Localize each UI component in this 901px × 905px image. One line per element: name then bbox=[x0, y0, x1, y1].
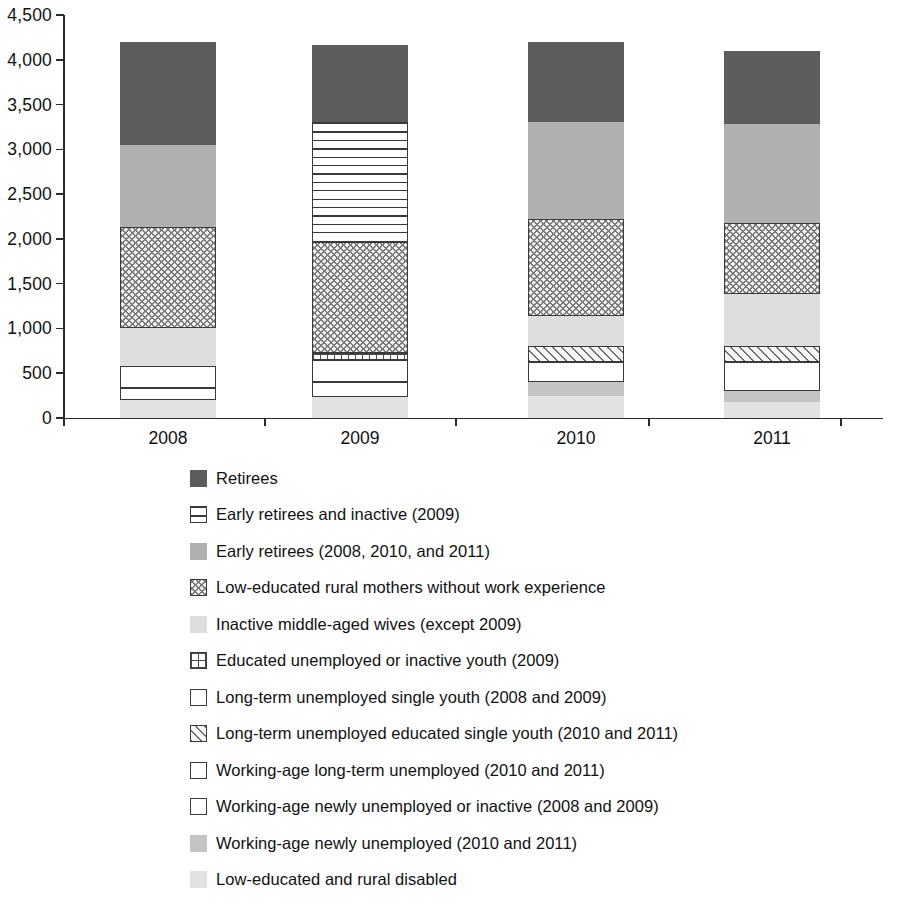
bar-segment-2010-working-age-long-term-unemployed-2010-and-2011 bbox=[528, 362, 624, 382]
x-axis-label-2009: 2009 bbox=[310, 428, 410, 449]
legend-swatch-solid-dark-gray-icon bbox=[190, 470, 207, 487]
legend-label: Long-term unemployed single youth (2008 … bbox=[216, 688, 606, 707]
bar-series-area bbox=[0, 0, 901, 455]
bar-segment-2011-inactive-middle-aged-wives-except-2009 bbox=[724, 294, 820, 347]
legend-item-working-age-newly-unemployed-or-inactive-2008-[interactable]: Working-age newly unemployed or inactive… bbox=[0, 789, 901, 826]
legend-item-inactive-middle-aged-wives-except-2009[interactable]: Inactive middle-aged wives (except 2009) bbox=[0, 606, 901, 643]
bar-segment-2009-working-age-newly-unemployed-or-inactive-2008- bbox=[312, 382, 408, 397]
bar-segment-2010-low-educated-and-rural-disabled bbox=[528, 396, 624, 418]
bar-segment-2011-low-educated-and-rural-disabled bbox=[724, 402, 820, 418]
legend-item-working-age-long-term-unemployed-2010-and-2011[interactable]: Working-age long-term unemployed (2010 a… bbox=[0, 752, 901, 789]
x-axis-label-2011: 2011 bbox=[722, 428, 822, 449]
x-axis-label-2010: 2010 bbox=[526, 428, 626, 449]
bar-segment-2009-low-educated-and-rural-disabled bbox=[312, 397, 408, 418]
bar-segment-2011-early-retirees-2008-2010-and-2011 bbox=[724, 124, 820, 223]
bar-2008 bbox=[120, 0, 216, 455]
bar-segment-2011-low-educated-rural-mothers-without-work-experi bbox=[724, 223, 820, 294]
legend-swatch-fine-grid-icon bbox=[190, 652, 207, 669]
legend-label: Early retirees (2008, 2010, and 2011) bbox=[216, 542, 490, 561]
legend-swatch-solid-medium-gray-icon bbox=[190, 543, 207, 560]
legend-label: Low-educated rural mothers without work … bbox=[216, 578, 606, 597]
legend-swatch-solid-gray-icon bbox=[190, 835, 207, 852]
legend-label: Retirees bbox=[216, 469, 278, 488]
legend-label: Inactive middle-aged wives (except 2009) bbox=[216, 615, 522, 634]
legend-swatch-solid-light-gray-icon bbox=[190, 616, 207, 633]
legend-item-early-retirees-and-inactive-2009[interactable]: Early retirees and inactive (2009) bbox=[0, 497, 901, 534]
bar-segment-2010-working-age-newly-unemployed-2010-and-2011 bbox=[528, 382, 624, 395]
bar-segment-2009-retirees bbox=[312, 45, 408, 123]
bar-segment-2009-educated-unemployed-or-inactive-youth-2009 bbox=[312, 353, 408, 360]
legend-swatch-white-outline-icon bbox=[190, 689, 207, 706]
legend-item-low-educated-rural-mothers-without-work-experi[interactable]: Low-educated rural mothers without work … bbox=[0, 570, 901, 607]
bar-segment-2011-retirees bbox=[724, 51, 820, 124]
legend-swatch-crosshatch-icon bbox=[190, 579, 207, 596]
bar-segment-2008-low-educated-rural-mothers-without-work-experi bbox=[120, 227, 216, 328]
bar-2011 bbox=[724, 0, 820, 455]
legend-label: Working-age long-term unemployed (2010 a… bbox=[216, 761, 605, 780]
legend-swatch-diagonal-hatch-icon bbox=[190, 725, 207, 742]
bar-segment-2010-low-educated-rural-mothers-without-work-experi bbox=[528, 219, 624, 316]
bar-segment-2008-early-retirees-2008-2010-and-2011 bbox=[120, 145, 216, 227]
legend-label: Low-educated and rural disabled bbox=[216, 870, 457, 889]
bar-segment-2010-retirees bbox=[528, 42, 624, 123]
stacked-bar-chart: 05001,0001,5002,0002,5003,0003,5004,0004… bbox=[0, 0, 901, 455]
legend-item-retirees[interactable]: Retirees bbox=[0, 460, 901, 497]
bar-segment-2008-low-educated-and-rural-disabled bbox=[120, 400, 216, 418]
legend-label: Working-age newly unemployed or inactive… bbox=[216, 797, 659, 816]
bar-segment-2010-long-term-unemployed-educated-single-youth-201 bbox=[528, 346, 624, 362]
legend-label: Early retirees and inactive (2009) bbox=[216, 505, 460, 524]
x-axis-label-2008: 2008 bbox=[118, 428, 218, 449]
bar-segment-2008-inactive-middle-aged-wives-except-2009 bbox=[120, 328, 216, 366]
legend-item-educated-unemployed-or-inactive-youth-2009[interactable]: Educated unemployed or inactive youth (2… bbox=[0, 643, 901, 680]
legend-item-low-educated-and-rural-disabled[interactable]: Low-educated and rural disabled bbox=[0, 862, 901, 899]
legend-label: Educated unemployed or inactive youth (2… bbox=[216, 651, 559, 670]
bar-segment-2009-long-term-unemployed-single-youth-2008-and-200 bbox=[312, 360, 408, 382]
bar-segment-2008-working-age-newly-unemployed-or-inactive-2008- bbox=[120, 388, 216, 400]
legend-item-early-retirees-2008-2010-and-2011[interactable]: Early retirees (2008, 2010, and 2011) bbox=[0, 533, 901, 570]
legend-item-long-term-unemployed-single-youth-2008-and-200[interactable]: Long-term unemployed single youth (2008 … bbox=[0, 679, 901, 716]
chart-page: 05001,0001,5002,0002,5003,0003,5004,0004… bbox=[0, 0, 901, 905]
chart-legend: RetireesEarly retirees and inactive (200… bbox=[0, 460, 901, 898]
bar-segment-2011-working-age-long-term-unemployed-2010-and-2011 bbox=[724, 362, 820, 391]
legend-swatch-horizontal-stripes-icon bbox=[190, 506, 207, 523]
bar-segment-2009-early-retirees-and-inactive-2009 bbox=[312, 122, 408, 242]
bar-segment-2010-early-retirees-2008-2010-and-2011 bbox=[528, 122, 624, 219]
bar-segment-2008-retirees bbox=[120, 42, 216, 145]
bar-2010 bbox=[528, 0, 624, 455]
bar-segment-2011-working-age-newly-unemployed-2010-and-2011 bbox=[724, 391, 820, 402]
bar-segment-2009-low-educated-rural-mothers-without-work-experi bbox=[312, 242, 408, 352]
legend-label: Long-term unemployed educated single you… bbox=[216, 724, 678, 743]
legend-label: Working-age newly unemployed (2010 and 2… bbox=[216, 834, 577, 853]
bar-segment-2010-inactive-middle-aged-wives-except-2009 bbox=[528, 316, 624, 346]
legend-swatch-vertical-stripes-icon bbox=[190, 798, 207, 815]
bar-segment-2008-long-term-unemployed-single-youth-2008-and-200 bbox=[120, 366, 216, 388]
legend-item-long-term-unemployed-educated-single-youth-201[interactable]: Long-term unemployed educated single you… bbox=[0, 716, 901, 753]
bar-2009 bbox=[312, 0, 408, 455]
legend-swatch-solid-pale-gray-icon bbox=[190, 871, 207, 888]
legend-item-working-age-newly-unemployed-2010-and-2011[interactable]: Working-age newly unemployed (2010 and 2… bbox=[0, 825, 901, 862]
bar-segment-2011-long-term-unemployed-educated-single-youth-201 bbox=[724, 346, 820, 362]
legend-swatch-white-outline-icon bbox=[190, 762, 207, 779]
